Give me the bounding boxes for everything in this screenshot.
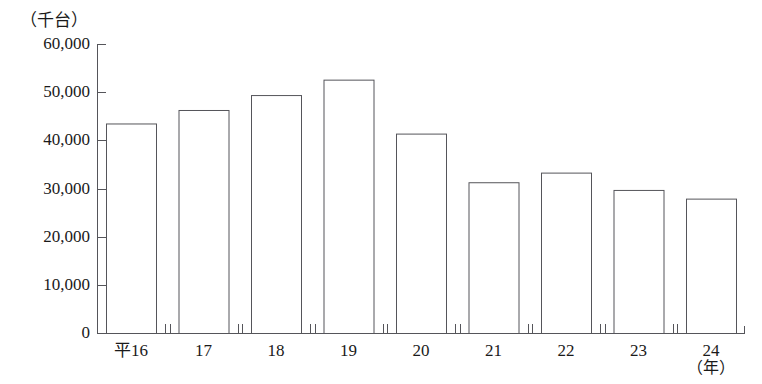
x-axis-tick-label: 21: [454, 342, 534, 360]
x-axis-tick-label: 24（年）: [671, 342, 751, 377]
x-axis-tick-label: 平16: [91, 342, 171, 360]
x-axis-tick-labels: 平161718192021222324（年）: [0, 0, 762, 384]
x-axis-tick-label-text: 24: [703, 341, 720, 360]
x-axis-tick-label-text: 19: [340, 341, 357, 360]
x-axis-tick-label: 23: [599, 342, 679, 360]
x-axis-tick-label-text: 22: [558, 341, 575, 360]
x-axis-tick-label: 22: [526, 342, 606, 360]
x-axis-tick-label-text: 18: [268, 341, 285, 360]
x-axis-unit-label: （年）: [671, 360, 751, 377]
x-axis-tick-label-text: 23: [630, 341, 647, 360]
x-axis-tick-label: 17: [164, 342, 244, 360]
x-axis-tick-label-text: 平16: [114, 341, 148, 360]
x-axis-tick-label: 20: [381, 342, 461, 360]
x-axis-tick-label-text: 21: [485, 341, 502, 360]
bar-chart: （千台） 010,00020,00030,00040,00050,00060,0…: [0, 0, 762, 384]
x-axis-tick-label-text: 17: [195, 341, 212, 360]
x-axis-tick-label-text: 20: [413, 341, 430, 360]
x-axis-tick-label: 18: [236, 342, 316, 360]
x-axis-tick-label: 19: [309, 342, 389, 360]
